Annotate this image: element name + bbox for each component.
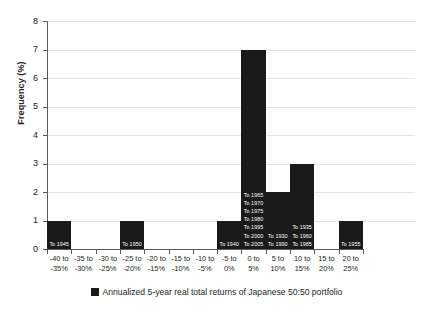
chart-legend: Annualized 5-year real total returns of … <box>0 287 433 297</box>
x-tick-label: 20 to25% <box>336 254 366 275</box>
bar-year-labels: To 1930To 1990 <box>266 232 290 248</box>
y-tick-label: 7 <box>0 45 38 54</box>
bar-slot <box>193 21 217 249</box>
bar: To 1945 <box>47 221 71 250</box>
bar-slot: To 1955 <box>339 21 363 249</box>
bar-slot <box>314 21 338 249</box>
bar: To 1930To 1990 <box>266 192 290 249</box>
bar-slot <box>96 21 120 249</box>
bar: To 1955 <box>339 221 363 250</box>
y-tick-label: 1 <box>0 216 38 225</box>
bar-year-label: To 1940 <box>219 240 239 248</box>
bar-slot: To 1950 <box>120 21 144 249</box>
bar: To 1950 <box>120 221 144 250</box>
bar-slot <box>144 21 168 249</box>
bar-year-label: To 1935 <box>292 223 312 231</box>
bar-series: To 1945To 1950To 1940To 1965To 1970To 19… <box>47 21 415 249</box>
bar-year-label: To 1980 <box>244 215 264 223</box>
bar-year-labels: To 1940 <box>217 240 241 248</box>
bar: To 1935To 1960To 1985 <box>290 164 314 250</box>
bar-slot: To 1940 <box>217 21 241 249</box>
bar-year-labels: To 1950 <box>120 240 144 248</box>
bar-slot <box>71 21 95 249</box>
bar-year-labels: To 1945 <box>47 240 71 248</box>
y-tick-label: 0 <box>0 245 38 254</box>
bar-slot: To 1965To 1970To 1975To 1980To 1995To 20… <box>241 21 265 249</box>
bar-year-labels: To 1955 <box>339 240 363 248</box>
bar-year-labels: To 1965To 1970To 1975To 1980To 1995To 20… <box>241 191 265 248</box>
bar-year-label: To 2005 <box>244 240 264 248</box>
bar-year-label: To 1950 <box>122 240 142 248</box>
bar-slot: To 1935To 1960To 1985 <box>290 21 314 249</box>
bar-year-label: To 1955 <box>341 240 361 248</box>
legend-label: Annualized 5-year real total returns of … <box>103 287 343 297</box>
bar-year-label: To 2000 <box>244 232 264 240</box>
y-tick-label: 5 <box>0 102 38 111</box>
y-tick-label: 6 <box>0 74 38 83</box>
bar: To 1965To 1970To 1975To 1980To 1995To 20… <box>241 50 265 250</box>
x-axis-labels: -40 to-35%-35 to-30%-30 to-25%-25 to-20%… <box>47 254 415 280</box>
bar-year-label: To 1975 <box>244 207 264 215</box>
bar-year-labels: To 1935To 1960To 1985 <box>290 223 314 248</box>
x-axis-line <box>47 249 364 250</box>
bar-year-label: To 1995 <box>244 223 264 231</box>
bar-slot: To 1945 <box>47 21 71 249</box>
bar-year-label: To 1965 <box>244 191 264 199</box>
bar-slot <box>169 21 193 249</box>
bar-year-label: To 1960 <box>292 232 312 240</box>
y-tick-label: 2 <box>0 188 38 197</box>
bar: To 1940 <box>217 221 241 250</box>
bar-slot: To 1930To 1990 <box>266 21 290 249</box>
bar-year-label: To 1970 <box>244 199 264 207</box>
bar-year-label: To 1945 <box>49 240 69 248</box>
chart-container: Frequency (%) 012345678 To 1945To 1950To… <box>0 0 433 315</box>
bar-year-label: To 1990 <box>268 240 288 248</box>
bar-year-label: To 1930 <box>268 232 288 240</box>
legend-swatch-icon <box>91 288 99 296</box>
y-tick-label: 3 <box>0 159 38 168</box>
bar-year-label: To 1985 <box>292 240 312 248</box>
y-tick-label: 8 <box>0 17 38 26</box>
y-tick-label: 4 <box>0 131 38 140</box>
